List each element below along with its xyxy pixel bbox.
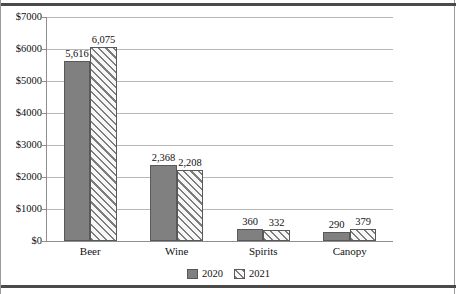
y-axis-tick-label: $5000 (2, 76, 42, 87)
legend-swatch-2020 (187, 269, 198, 279)
x-axis-line (46, 241, 393, 242)
bar-wine-2020 (150, 165, 177, 241)
bar-beer-2020 (64, 61, 91, 241)
bar-wine-2021 (177, 170, 204, 241)
top-border-rule (1, 3, 456, 6)
legend-item-2020[interactable]: 2020 (187, 268, 223, 279)
y-axis-tick-label: $6000 (2, 44, 42, 55)
data-label-canopy-2021: 379 (341, 216, 385, 227)
category-label-canopy: Canopy (305, 245, 395, 257)
category-label-wine: Wine (132, 245, 222, 257)
bar-canopy-2020 (323, 232, 350, 241)
bottom-border-rule (1, 285, 456, 288)
y-axis-tick-label: $2000 (2, 172, 42, 183)
bar-spirits-2020 (237, 229, 264, 241)
data-label-wine-2021: 2,208 (168, 157, 212, 168)
category-label-beer: Beer (45, 245, 135, 257)
bar-beer-2021 (90, 47, 117, 241)
bar-canopy-2021 (350, 229, 377, 241)
y-axis-tick-label: $4000 (2, 108, 42, 119)
y-axis-tick-label: $0 (2, 236, 42, 247)
data-label-spirits-2021: 332 (255, 217, 299, 228)
legend-swatch-2021 (234, 269, 245, 279)
y-axis-labels: $0$1000$2000$3000$4000$5000$6000$7000 (1, 0, 42, 294)
y-axis-tick-label: $1000 (2, 204, 42, 215)
y-axis-tick-label: $3000 (2, 140, 42, 151)
y-axis-tick-label: $7000 (2, 12, 42, 23)
legend-label-2020: 2020 (202, 268, 223, 279)
gridline (47, 17, 393, 18)
chart-legend: 20202021 (1, 268, 456, 279)
category-label-spirits: Spirits (218, 245, 308, 257)
data-label-beer-2021: 6,075 (82, 34, 126, 45)
legend-label-2021: 2021 (249, 268, 270, 279)
bar-spirits-2021 (263, 230, 290, 241)
plot-area: 5,6166,0752,3682,208360332290379 (47, 17, 393, 241)
legend-item-2021[interactable]: 2021 (234, 268, 270, 279)
